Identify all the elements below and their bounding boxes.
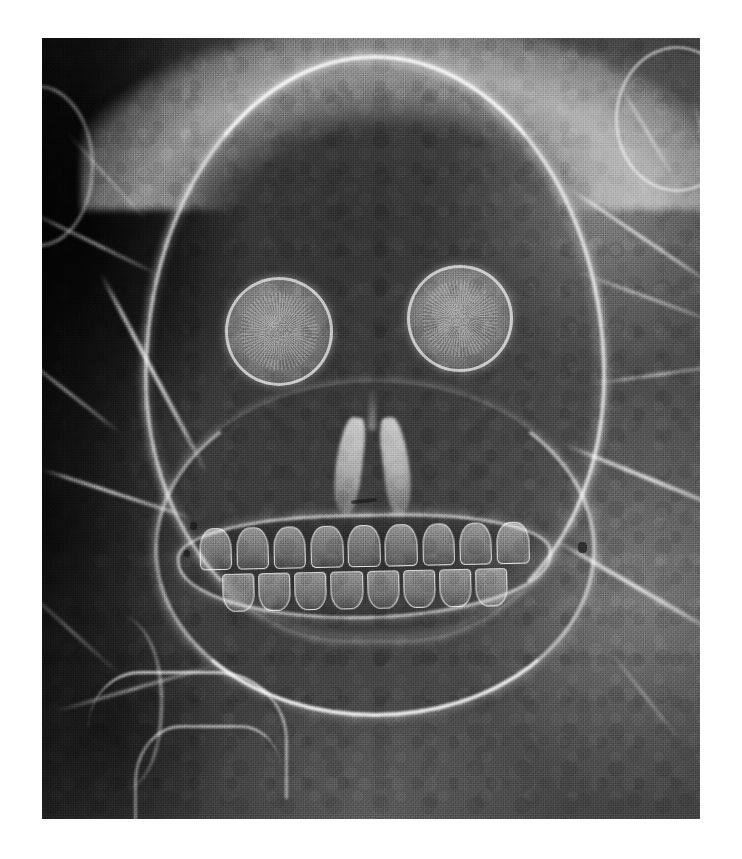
field-boundary-c: [55, 616, 163, 788]
dark-speck: [190, 522, 197, 530]
left-eye-socket-texture: [240, 292, 318, 370]
right-eye-socket-texture: [422, 280, 498, 357]
tooth: [439, 569, 472, 608]
upper-tooth-row: [199, 521, 530, 570]
page-root: Skull geoglyph formed by light-toned cle…: [0, 0, 742, 859]
dark-speck: [578, 542, 587, 553]
tooth: [496, 521, 529, 564]
field-path-left-2: [42, 351, 120, 434]
tooth: [236, 527, 269, 570]
tooth: [294, 572, 327, 611]
tooth: [347, 525, 380, 568]
lower-tooth-row: [222, 568, 508, 612]
left-eye-socket: [228, 280, 331, 383]
tooth: [384, 524, 417, 567]
tooth: [199, 528, 232, 571]
tooth: [330, 571, 363, 610]
tooth: [366, 571, 399, 610]
dark-speck: [184, 550, 190, 557]
tooth: [475, 568, 508, 607]
aerial-photograph: [42, 38, 700, 819]
tooth: [273, 526, 306, 569]
right-eye-socket: [410, 268, 510, 370]
right-nostril: [377, 416, 414, 516]
field-path-right-6: [607, 648, 682, 743]
field-path-right-3: [595, 363, 700, 384]
mouth-region: [176, 510, 553, 623]
tooth: [258, 573, 291, 612]
tooth: [422, 523, 455, 566]
nasal-bridge: [369, 391, 377, 430]
tooth: [403, 570, 436, 609]
tooth: [459, 522, 492, 565]
tooth: [222, 574, 255, 613]
tooth: [310, 525, 343, 568]
